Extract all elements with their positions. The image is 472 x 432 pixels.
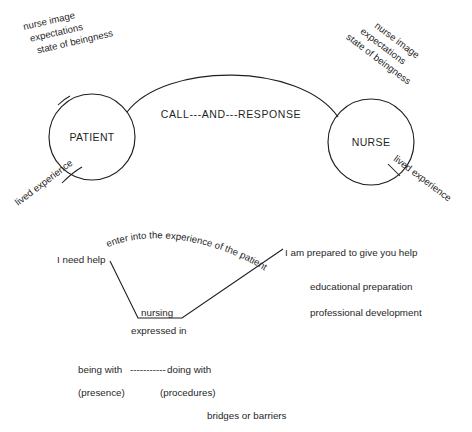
patient-lived-experience-label: lived experience (13, 157, 75, 208)
expressed-in-label: expressed in (131, 325, 187, 336)
nursing-vertex-label: nursing (141, 307, 173, 318)
nurse-node-label: NURSE (352, 136, 391, 148)
presence-label: (presence) (78, 387, 125, 398)
nurse-lived-experience-annotation: lived experience (392, 153, 454, 204)
patient-lived-experience-annotation: lived experience (13, 157, 75, 208)
being-with-label: being with (78, 364, 122, 375)
call-and-response-diagram: PATIENT NURSE CALL---AND---RESPONSE nurs… (0, 0, 472, 432)
patient-need-statement: I need help (57, 254, 106, 265)
educational-preparation-label: educational preparation (310, 281, 412, 292)
enter-experience-arc-textpath: enter into the experience of the patient (104, 229, 269, 272)
enter-experience-arc-label: enter into the experience of the patient (104, 229, 269, 272)
nurse-top-annotations: nurse image expectations state of beingn… (344, 10, 429, 87)
patient-top-annotations: nurse image expectations state of beingn… (22, 2, 114, 57)
professional-development-label: professional development (310, 307, 422, 318)
diagram-canvas: PATIENT NURSE CALL---AND---RESPONSE nurs… (0, 0, 472, 432)
nurse-prepared-statement: I am prepared to give you help (285, 247, 418, 258)
bridges-or-barriers-label: bridges or barriers (207, 410, 287, 421)
nurse-lived-experience-label: lived experience (392, 153, 454, 204)
call-and-response-label: CALL---AND---RESPONSE (161, 108, 301, 120)
procedures-label: (procedures) (160, 387, 216, 398)
doing-with-label: doing with (167, 364, 211, 375)
being-doing-connector: ----------- (130, 364, 166, 375)
patient-node-label: PATIENT (69, 131, 114, 143)
